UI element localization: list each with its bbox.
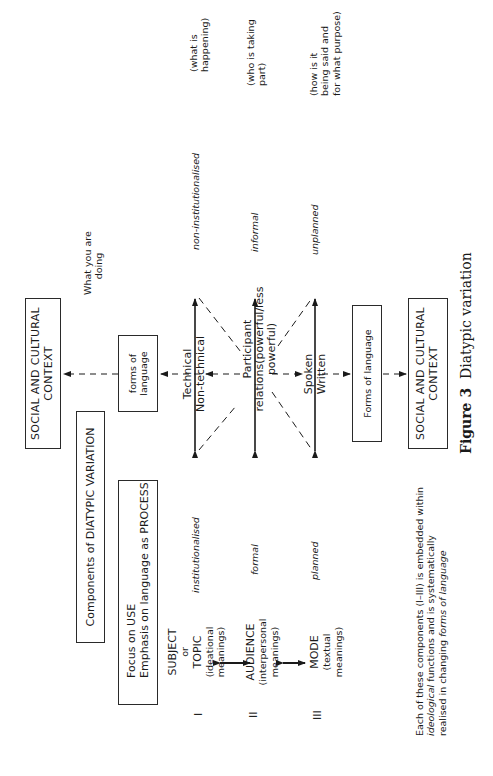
mode-continuum-label: Spoken Written: [303, 344, 328, 404]
pole-institutionalised: institutionalised: [190, 517, 201, 593]
forms-of-language-box-bottom: Forms of language: [352, 305, 382, 442]
focus-on-use-box: Focus on USE Emphasis on language as PRO…: [118, 480, 158, 705]
diagram-canvas: SOCIAL AND CULTURAL CONTEXT What you are…: [0, 0, 493, 776]
component-subject-topic: SUBJECT or TOPIC (ideational meanings): [166, 619, 227, 685]
pole-informal: informal: [249, 213, 260, 252]
component-audience: AUDIENCE (interpersonal meanings): [244, 612, 280, 692]
numeral-III: III: [311, 710, 324, 720]
gloss-who-is-taking-part: (who is taking part): [245, 19, 268, 86]
numeral-I: I: [192, 713, 205, 716]
pole-formal: formal: [249, 544, 260, 575]
figure-caption: Figure 3 Diatypic variation: [458, 252, 475, 454]
gloss-what-is-happening: (what is happening): [188, 18, 211, 72]
tenor-continuum-label: Participant relations(powerful/less powe…: [242, 284, 278, 414]
social-cultural-context-box-top: SOCIAL AND CULTURAL CONTEXT: [25, 298, 61, 449]
forms-of-language-box-top: forms of language: [118, 335, 158, 412]
gloss-how-is-it-being-said: (how is it being said and for what purpo…: [308, 11, 342, 96]
what-you-are-doing-label: What you are doing: [82, 237, 105, 295]
components-box: Components of DIATYPIC VARIATION: [76, 411, 105, 643]
social-cultural-context-box-bottom: SOCIAL AND CULTURAL CONTEXT: [408, 298, 448, 449]
pole-planned: planned: [309, 542, 320, 580]
component-mode: MODE (textual meanings): [308, 619, 344, 685]
numeral-II: II: [247, 712, 260, 719]
pole-non-institutionalised: non-institutionalised: [190, 153, 201, 250]
field-continuum-label: Technical Non-technical: [182, 332, 207, 416]
pole-unplanned: unplanned: [309, 205, 320, 255]
components-note: Each of these components (I–III) is embe…: [414, 487, 448, 736]
